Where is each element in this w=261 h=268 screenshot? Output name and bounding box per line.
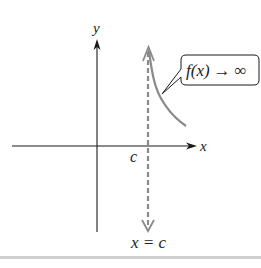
asymptote-equation-label: x = c: [130, 233, 167, 252]
limit-callout: f(x)→∞: [162, 55, 259, 94]
y-axis-label: y: [91, 20, 100, 36]
x-axis: [12, 143, 197, 150]
diagram-svg: f(x)→∞ y x c x = c: [0, 0, 261, 268]
y-axis: [94, 39, 101, 232]
asymptote-line: [142, 52, 154, 231]
function-curve: [143, 47, 186, 126]
bottom-divider: [0, 256, 261, 259]
callout-text: f(x)→∞: [186, 61, 247, 80]
c-tick-label: c: [130, 148, 137, 165]
vertical-asymptote-diagram: f(x)→∞ y x c x = c: [0, 0, 261, 268]
x-axis-label: x: [199, 138, 207, 154]
